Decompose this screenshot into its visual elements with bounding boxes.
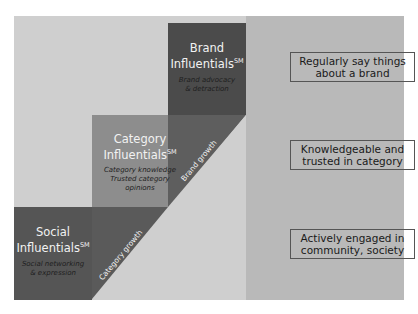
- diagram-frame: BrandInfluentialsSM Brand advocacy& detr…: [14, 16, 404, 300]
- category-description-box: Knowledgeable andtrusted in category: [290, 140, 415, 170]
- category-influentials-label: CategoryInfluentialsSM Category knowledg…: [92, 133, 188, 193]
- social-influentials-label: SocialInfluentialsSM Social networking& …: [14, 226, 92, 278]
- brand-influentials-label: BrandInfluentialsSM Brand advocacy& detr…: [168, 42, 246, 94]
- social-description-box: Actively engaged incommunity, society: [290, 229, 415, 259]
- brand-description-box: Regularly say thingsabout a brand: [290, 52, 415, 82]
